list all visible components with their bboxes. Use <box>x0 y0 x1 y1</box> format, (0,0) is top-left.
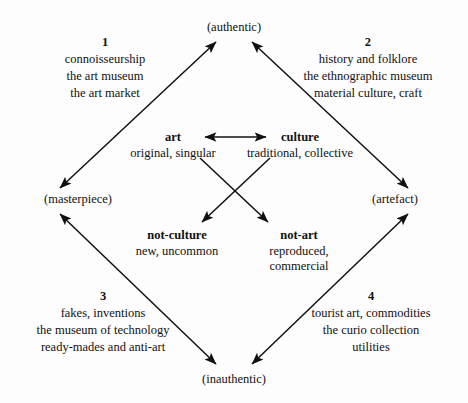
pole-label-authentic: (authentic) <box>207 20 261 35</box>
term-not-culture-sub: new, uncommon <box>136 244 219 260</box>
quadrant-4-line-3: utilities <box>311 339 430 356</box>
term-culture-sub: traditional, collective <box>247 146 353 162</box>
pole-label-artefact: (artefact) <box>372 192 418 207</box>
quadrant-2-line-3: material culture, craft <box>303 85 432 102</box>
quadrant-4-line-2: the curio collection <box>311 322 430 339</box>
term-culture-head: culture <box>247 130 353 146</box>
quadrant-3-line-1: fakes, inventions <box>37 305 170 322</box>
pole-label-inauthentic: (inauthentic) <box>202 372 266 387</box>
quadrant-3-number: 3 <box>37 288 170 305</box>
quadrant-3-line-3: ready-mades and anti-art <box>37 339 170 356</box>
term-art: art original, singular <box>130 130 215 161</box>
term-not-art-sub-line-2: commercial <box>269 259 328 275</box>
quadrant-4-line-1: tourist art, commodities <box>311 305 430 322</box>
diagram-canvas: (authentic) (masterpiece) (artefact) (in… <box>0 0 468 403</box>
term-not-art-sub-line-1: reproduced, <box>269 244 328 260</box>
term-not-culture: not-culture new, uncommon <box>136 228 219 259</box>
term-culture: culture traditional, collective <box>247 130 353 161</box>
quadrant-2-number: 2 <box>303 34 432 51</box>
connector-art-to-not-art <box>200 158 268 222</box>
term-not-culture-head: not-culture <box>136 228 219 244</box>
term-art-sub: original, singular <box>130 146 215 162</box>
quadrant-1-line-3: the art market <box>65 85 146 102</box>
quadrant-1-number: 1 <box>65 34 146 51</box>
quadrant-block-4: 4 tourist art, commodities the curio col… <box>311 288 430 356</box>
quadrant-block-2: 2 history and folklore the ethnographic … <box>303 34 432 102</box>
quadrant-block-3: 3 fakes, inventions the museum of techno… <box>37 288 170 356</box>
pole-label-masterpiece: (masterpiece) <box>44 192 112 207</box>
quadrant-1-line-1: connoisseurship <box>65 51 146 68</box>
quadrant-1-line-2: the art museum <box>65 68 146 85</box>
quadrant-block-1: 1 connoisseurship the art museum the art… <box>65 34 146 102</box>
quadrant-2-line-2: the ethnographic museum <box>303 68 432 85</box>
quadrant-3-line-2: the museum of technology <box>37 322 170 339</box>
term-not-art: not-art reproduced, commercial <box>269 228 328 275</box>
term-not-art-head: not-art <box>269 228 328 244</box>
term-art-head: art <box>130 130 215 146</box>
quadrant-4-number: 4 <box>311 288 430 305</box>
connector-culture-to-not-culture <box>202 158 270 222</box>
quadrant-2-line-1: history and folklore <box>303 51 432 68</box>
